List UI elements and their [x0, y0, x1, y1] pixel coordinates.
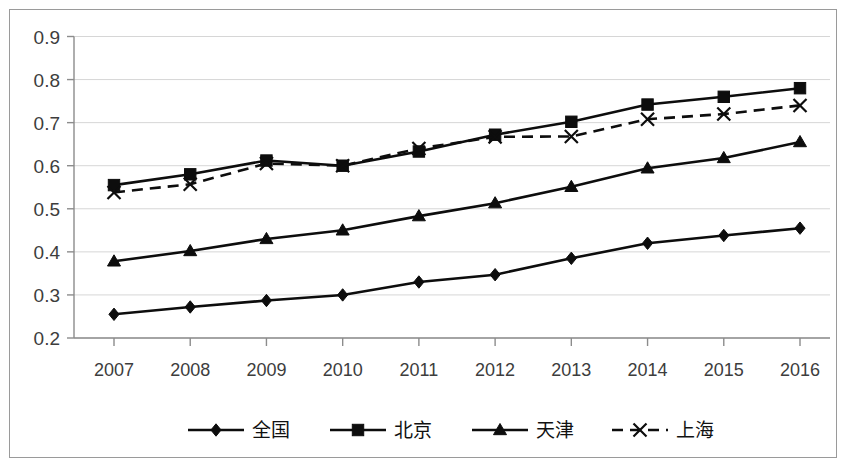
marker-diamond	[490, 268, 500, 280]
marker-diamond	[414, 276, 424, 288]
marker-diamond	[795, 222, 805, 234]
marker-diamond	[109, 308, 119, 320]
chart-plot-area: 0.20.30.40.50.60.70.80.9 200720082009201…	[0, 0, 848, 467]
chart-legend: 全国北京天津上海	[188, 420, 714, 441]
series-line	[114, 228, 800, 314]
marker-diamond	[338, 289, 348, 301]
y-tick-label: 0.2	[34, 328, 60, 349]
marker-square	[718, 91, 729, 102]
y-tick-label: 0.5	[34, 199, 60, 220]
legend-label: 上海	[676, 420, 714, 441]
series-line	[114, 142, 800, 261]
x-tick-label: 2009	[246, 360, 286, 380]
series-line	[114, 105, 800, 192]
y-tick-label: 0.9	[34, 27, 60, 48]
marker-square	[642, 99, 653, 110]
x-tick-label: 2010	[323, 360, 363, 380]
y-tick-label: 0.4	[34, 242, 61, 263]
marker-square	[185, 169, 196, 180]
marker-diamond	[719, 229, 729, 241]
y-tick-label: 0.7	[34, 113, 60, 134]
data-series	[107, 82, 806, 320]
series-天津	[107, 136, 806, 267]
marker-square	[352, 424, 363, 435]
series-上海	[107, 99, 806, 199]
legend-item-上海: 上海	[612, 420, 714, 441]
x-tick-label: 2012	[475, 360, 515, 380]
marker-diamond	[261, 294, 271, 306]
legend-label: 全国	[252, 420, 290, 441]
legend-label: 北京	[394, 420, 432, 441]
marker-diamond	[185, 301, 195, 313]
marker-diamond	[642, 237, 652, 249]
series-全国	[109, 222, 805, 321]
y-tick-label: 0.3	[34, 285, 60, 306]
y-tick-label: 0.8	[34, 70, 60, 91]
y-tick-label: 0.6	[34, 156, 60, 177]
marker-triangle	[793, 136, 806, 147]
x-tick-label: 2011	[400, 360, 439, 380]
legend-label: 天津	[536, 420, 574, 441]
series-北京	[108, 82, 805, 190]
y-axis: 0.20.30.40.50.60.70.80.9	[34, 27, 74, 350]
x-tick-label: 2013	[551, 360, 591, 380]
marker-square	[566, 116, 577, 127]
marker-square	[794, 82, 805, 93]
x-tick-label: 2014	[628, 360, 668, 380]
legend-item-北京: 北京	[330, 420, 432, 441]
legend-item-天津: 天津	[472, 420, 574, 441]
x-tick-label: 2015	[704, 360, 744, 380]
marker-diamond	[211, 424, 221, 436]
x-tick-label: 2016	[780, 360, 820, 380]
x-tick-label: 2008	[170, 360, 210, 380]
line-chart: 0.20.30.40.50.60.70.80.9 200720082009201…	[0, 0, 848, 467]
series-line	[114, 88, 800, 185]
legend-item-全国: 全国	[188, 420, 290, 441]
x-tick-label: 2007	[94, 360, 134, 380]
marker-diamond	[566, 252, 576, 264]
x-axis: 2007200820092010201120122013201420152016	[74, 338, 830, 380]
